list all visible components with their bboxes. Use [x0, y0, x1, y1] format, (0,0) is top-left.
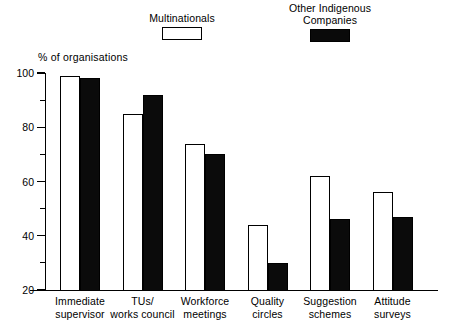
bar-chart: Multinationals Other Indigenous Companie…: [0, 0, 453, 334]
y-tick-minor: [40, 100, 45, 101]
bar: [393, 217, 413, 290]
y-tick-label: 100: [8, 67, 34, 79]
bar: [330, 219, 350, 290]
bar: [268, 263, 288, 290]
y-tick-minor: [40, 154, 45, 155]
y-tick-major: [37, 235, 45, 236]
y-tick-minor: [40, 262, 45, 263]
y-tick-label: 60: [8, 176, 34, 188]
y-tick-major: [37, 72, 45, 73]
bar: [80, 78, 100, 290]
y-axis-line: [45, 73, 46, 291]
y-tick-minor: [40, 208, 45, 209]
y-tick-label: 20: [8, 284, 34, 296]
bar: [373, 192, 393, 290]
bar: [143, 95, 163, 290]
bar: [185, 144, 205, 290]
bar: [205, 154, 225, 290]
plot-area: 20406080100 Immediate supervisorTUs/ wor…: [0, 0, 453, 334]
bar: [60, 76, 80, 290]
y-tick-major: [37, 181, 45, 182]
x-axis-line: [30, 290, 438, 291]
bar: [310, 176, 330, 290]
bar: [123, 114, 143, 290]
y-tick-label: 40: [8, 230, 34, 242]
y-tick-major: [37, 289, 45, 290]
bar: [248, 225, 268, 290]
y-tick-label: 80: [8, 121, 34, 133]
y-tick-major: [37, 127, 45, 128]
x-axis-category-label: Attitude surveys: [349, 295, 437, 320]
